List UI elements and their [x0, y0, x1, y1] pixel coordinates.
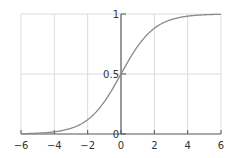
x-tick-label: −6 [14, 140, 29, 151]
x-tick-label: 2 [151, 140, 157, 151]
x-tick-label: 4 [184, 140, 190, 151]
y-tick-label: 0.5 [103, 69, 119, 80]
sigmoid-chart: −6−4−20246 00.51 [0, 0, 239, 158]
x-tick-label: 0 [118, 140, 124, 151]
y-tick-label: 0 [113, 129, 119, 140]
y-tick-labels: 00.51 [103, 9, 119, 140]
y-tick-label: 1 [113, 9, 119, 20]
chart-svg: −6−4−20246 00.51 [0, 0, 239, 158]
x-tick-label: −2 [80, 140, 95, 151]
x-tick-labels: −6−4−20246 [14, 140, 225, 151]
x-tick-label: 6 [218, 140, 224, 151]
x-tick-label: −4 [47, 140, 62, 151]
